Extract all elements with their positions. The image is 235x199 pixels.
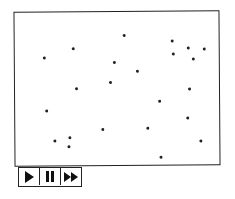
particle — [68, 136, 71, 139]
particle — [75, 87, 78, 90]
pause-icon — [45, 171, 55, 182]
particle — [171, 40, 174, 43]
fast-forward-button[interactable] — [61, 168, 81, 185]
particle — [159, 156, 162, 159]
particle — [113, 61, 116, 64]
particle — [67, 145, 70, 148]
fast-forward-icon — [64, 172, 78, 182]
particle — [188, 87, 191, 90]
pause-button[interactable] — [40, 168, 61, 185]
particle — [45, 109, 48, 112]
particle — [199, 139, 202, 142]
play-icon — [24, 171, 34, 183]
particle — [43, 56, 46, 59]
playback-controls — [18, 167, 82, 187]
particle — [109, 81, 112, 84]
particle — [101, 128, 104, 131]
particle — [186, 116, 189, 119]
particle — [123, 34, 126, 37]
particle — [53, 139, 56, 142]
particle — [136, 70, 139, 73]
particle — [72, 47, 75, 50]
simulation-canvas — [13, 10, 220, 166]
particle — [187, 46, 190, 49]
particle — [172, 53, 175, 56]
particle — [192, 57, 195, 60]
play-button[interactable] — [19, 168, 40, 185]
particle — [146, 127, 149, 130]
particle — [203, 47, 206, 50]
particle — [158, 100, 161, 103]
